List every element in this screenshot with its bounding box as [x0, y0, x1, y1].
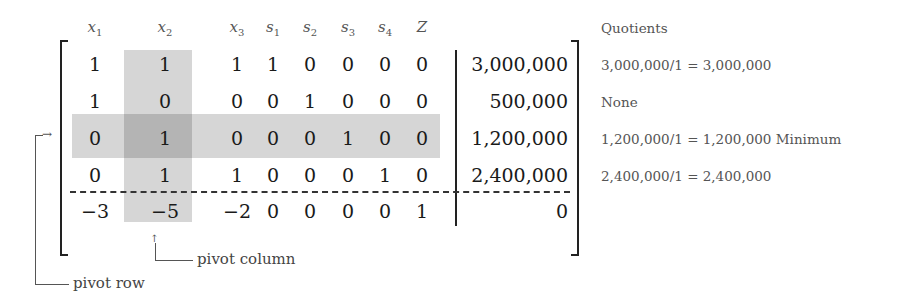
pivot-element: 1 [143, 127, 187, 149]
cell: 1 [73, 90, 117, 112]
pivot-row-leader-line-h [35, 284, 69, 285]
quotient-item: 3,000,000/1 = 3,000,000 [601, 57, 771, 73]
header-x1: x1 [75, 18, 115, 38]
cell: 0 [400, 164, 444, 186]
rhs-value: 1,200,000 [460, 127, 568, 149]
pivot-row-label: pivot row [73, 274, 145, 292]
augmented-divider [455, 50, 457, 226]
cell: 1 [73, 53, 117, 75]
cell: 0 [400, 127, 444, 149]
quotients-title: Quotients [601, 20, 668, 36]
cell: 1 [143, 53, 187, 75]
up-arrow-icon: ↑ [150, 234, 158, 244]
pivot-column-leader-line-h [155, 260, 193, 261]
quotient-item: None [601, 94, 638, 110]
pivot-row-leader-line [35, 135, 36, 284]
header-x3: x3 [217, 18, 257, 38]
cell: 0 [400, 53, 444, 75]
cell: 0 [400, 90, 444, 112]
header-s2: s2 [290, 18, 330, 38]
header-s3: s3 [328, 18, 368, 38]
left-matrix-bracket [60, 40, 68, 256]
cell: 1 [400, 200, 444, 222]
pivot-row-leader-line-top [35, 135, 43, 136]
cell: −3 [73, 200, 117, 222]
quotient-item: 2,400,000/1 = 2,400,000 [601, 168, 771, 184]
right-matrix-bracket [571, 40, 579, 256]
cell: 0 [143, 90, 187, 112]
cell: −5 [143, 200, 187, 222]
header-s1: s1 [253, 18, 293, 38]
header-z: Z [402, 18, 442, 38]
right-arrow-icon: → [42, 128, 52, 140]
rhs-value: 500,000 [460, 90, 568, 112]
header-s4: s4 [365, 18, 405, 38]
rhs-value: 2,400,000 [460, 164, 568, 186]
rhs-value: 0 [460, 200, 568, 222]
cell: 0 [73, 127, 117, 149]
header-x2: x2 [145, 18, 185, 38]
pivot-column-leader-line [155, 243, 156, 261]
cell: 1 [143, 164, 187, 186]
rhs-value: 3,000,000 [460, 53, 568, 75]
quotient-item-minimum: 1,200,000/1 = 1,200,000 Minimum [601, 131, 841, 147]
pivot-column-label: pivot column [197, 250, 295, 268]
cell: 0 [73, 164, 117, 186]
objective-row-separator [70, 191, 570, 193]
